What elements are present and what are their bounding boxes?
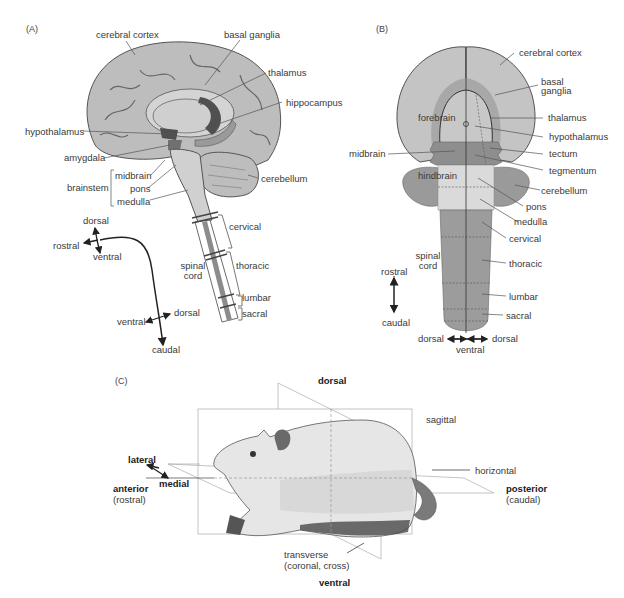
axis-a-rostral: rostral (53, 240, 79, 251)
axis-a-ventral-bottom: ventral (117, 316, 146, 327)
label-b-tegmentum: tegmentum (549, 165, 597, 176)
label-b-cervical: cervical (509, 233, 541, 244)
axis-b-caudal: caudal (382, 317, 410, 328)
label-a-midbrain: midbrain (115, 170, 151, 181)
label-a-thoracic: thoracic (236, 260, 269, 271)
label-a-cerebellum: cerebellum (261, 173, 307, 184)
label-a-pons: pons (130, 183, 151, 194)
axis-b-rostral: rostral (381, 266, 407, 277)
label-b-thoracic: thoracic (509, 258, 542, 269)
label-b-pons: pons (526, 201, 547, 212)
label-c-transverse: transverse (284, 549, 328, 560)
label-b-tectum: tectum (549, 148, 578, 159)
label-b-cord: cord (414, 260, 442, 271)
rat-body-planes-illustration (146, 383, 494, 559)
label-a-amygdala: amygdala (64, 152, 105, 163)
label-b-forebrain: forebrain (418, 112, 456, 123)
axis-a-dorsal-bottom: dorsal (174, 307, 200, 318)
axis-b-dorsal-left: dorsal (418, 333, 444, 344)
label-a-hippocampus: hippocampus (286, 97, 343, 108)
axis-b-ventral: ventral (456, 344, 485, 355)
label-a-brainstem: brainstem (67, 182, 109, 193)
label-b-cerebral-cortex: cerebral cortex (519, 47, 582, 58)
label-a-cerebral-cortex: cerebral cortex (96, 29, 159, 40)
label-b-midbrain: midbrain (349, 148, 385, 159)
axis-a-dorsal-top: dorsal (83, 215, 109, 226)
label-a-cervical: cervical (229, 221, 261, 232)
label-a-lumbar: lumbar (242, 292, 271, 303)
label-a-basal-ganglia: basal ganglia (224, 29, 280, 40)
label-a-cord: cord (176, 270, 210, 281)
label-c-ventral: ventral (319, 577, 350, 588)
panel-c-tag: (C) (115, 376, 128, 386)
label-c-anterior: anterior (113, 483, 148, 494)
axis-a-ventral-top: ventral (93, 251, 122, 262)
panel-b-tag: (B) (376, 24, 388, 34)
label-b-ganglia: ganglia (541, 85, 572, 96)
label-c-rostral: (rostral) (113, 494, 146, 505)
label-c-medial: medial (159, 478, 189, 489)
label-c-caudal: (caudal) (506, 494, 540, 505)
label-b-lumbar: lumbar (509, 291, 538, 302)
label-c-lateral: lateral (128, 454, 156, 465)
label-c-dorsal: dorsal (318, 375, 347, 386)
label-b-hypothalamus: hypothalamus (549, 131, 608, 142)
label-b-sacral: sacral (506, 310, 531, 321)
label-b-cerebellum: cerebellum (541, 185, 587, 196)
label-b-medulla: medulla (514, 216, 547, 227)
label-c-posterior: posterior (506, 483, 547, 494)
label-b-thalamus: thalamus (548, 112, 587, 123)
label-c-coronal-cross: (coronal, cross) (284, 560, 349, 571)
label-b-hindbrain: hindbrain (418, 170, 457, 181)
axis-a-caudal: caudal (152, 344, 180, 355)
panel-a-tag: (A) (26, 24, 38, 34)
label-a-hypothalamus: hypothalamus (25, 126, 84, 137)
axis-b-dorsal-right: dorsal (492, 333, 518, 344)
label-c-horizontal: horizontal (475, 465, 516, 476)
label-c-sagittal: sagittal (426, 414, 456, 425)
label-a-medulla: medulla (117, 196, 150, 207)
label-a-thalamus: thalamus (268, 67, 307, 78)
label-a-sacral: sacral (242, 308, 267, 319)
